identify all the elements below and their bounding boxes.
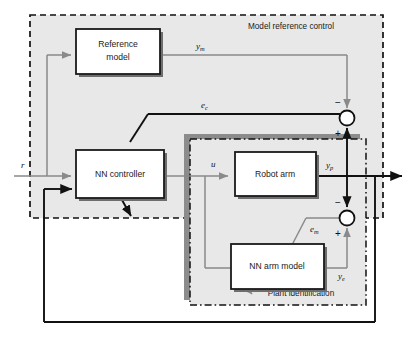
signal-label-r: r [21,160,25,170]
robot-arm-label: Robot arm [255,169,295,179]
sum-control-sign-minus: − [335,97,341,108]
nn-controller-label: NN controller [95,169,145,179]
reference-model-label-line1: Reference [98,39,138,49]
signal-yp-sub: p [329,164,333,171]
sum-identification-sign-plus: + [335,228,341,239]
sum-control-sign-plus: + [335,128,341,139]
signal-u-base: u [211,159,216,169]
sum-junction-identification[interactable] [340,211,355,226]
signal-ym-sub: m [200,45,205,52]
reference-model-label-line2: model [106,52,129,62]
region-label-model-reference-control: Model reference control [248,22,334,31]
signal-ye-sub: e [342,275,345,282]
sum-identification-sign-minus: − [335,197,341,208]
signal-r-base: r [21,160,25,170]
nn-arm-model-label: NN arm model [249,261,304,271]
control-diagram: Model reference control Plant identifica… [0,0,417,338]
signal-ec-sub: c [205,104,208,111]
signal-em-sub: m [314,228,319,235]
sum-junction-control[interactable] [340,111,355,126]
signal-label-u: u [211,159,216,169]
